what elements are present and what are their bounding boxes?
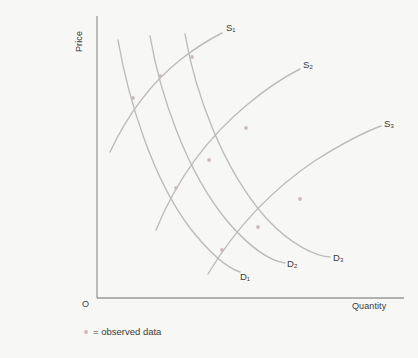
supply-curve-s3 <box>208 126 381 274</box>
axes <box>97 16 404 298</box>
supply-curves <box>110 33 381 274</box>
demand-curve-d2 <box>150 36 285 263</box>
supply-curve-s1 <box>110 33 222 152</box>
curve-label-s1: S₁ <box>226 22 236 33</box>
demand-curve-d1 <box>118 40 240 272</box>
observed-data-point <box>244 126 248 130</box>
curve-label-d1: D₁ <box>240 271 250 282</box>
observed-data-point <box>158 74 162 78</box>
observed-data-point <box>256 225 260 229</box>
curve-label-d2: D₂ <box>287 258 298 269</box>
observed-data-point <box>174 186 178 190</box>
observed-data-point <box>220 248 224 252</box>
observed-data-point <box>190 55 194 59</box>
curve-label-s2: S₂ <box>303 59 313 70</box>
supply-curve-s2 <box>156 69 300 230</box>
curve-label-s3: S₃ <box>384 118 394 129</box>
supply-demand-figure: Price Quantity O S₁ S₂ S₃ D₁ D₂ D₃ = obs… <box>0 0 418 358</box>
observed-data-point <box>207 158 211 162</box>
observed-data-markers <box>131 55 302 252</box>
legend-label: = observed data <box>93 326 161 337</box>
y-axis-label: Price <box>74 31 84 52</box>
origin-label: O <box>82 299 89 309</box>
x-axis-label: Quantity <box>352 301 386 311</box>
chart-legend: = observed data <box>84 326 161 337</box>
observed-data-dot-icon <box>84 330 88 334</box>
curve-label-d3: D₃ <box>333 252 344 263</box>
observed-data-point <box>298 197 302 201</box>
observed-data-point <box>131 96 135 100</box>
